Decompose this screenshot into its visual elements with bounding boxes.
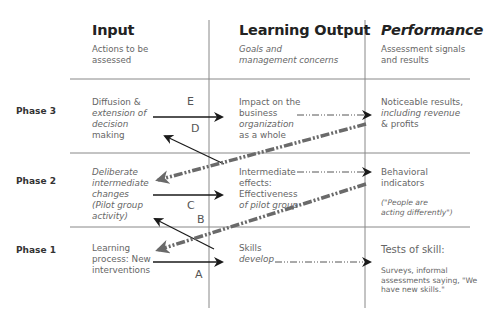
arrow-label-a: A bbox=[195, 268, 203, 281]
arrow-label-b: B bbox=[197, 213, 205, 226]
arrow-label-d: D bbox=[191, 122, 199, 135]
column-subtitle-learning-output: Goals and management concerns bbox=[239, 44, 338, 66]
column-subtitle-performance: Assessment signals and results bbox=[381, 44, 465, 66]
phase1-output: Skills develop bbox=[239, 243, 274, 265]
column-subtitle-input: Actions to be assessed bbox=[92, 44, 148, 66]
phase2-performance: Behavioral indicators bbox=[381, 167, 428, 189]
column-title-input: Input bbox=[92, 22, 134, 38]
arrow-label-e: E bbox=[187, 95, 194, 108]
phase-label-2: Phase 2 bbox=[16, 176, 56, 186]
phase1-performance: Tests of skill: bbox=[381, 244, 445, 255]
phase-label-1: Phase 1 bbox=[16, 245, 56, 255]
phase1-performance-note: Surveys, informal assessments saying, "W… bbox=[381, 266, 477, 295]
phase3-input: Diffusion & extension of decision making bbox=[92, 97, 146, 141]
arrow-label-c: C bbox=[187, 199, 195, 212]
column-title-performance: Performance bbox=[381, 22, 483, 38]
phase-label-3: Phase 3 bbox=[16, 106, 56, 116]
phase3-performance: Noticeable results, including revenue & … bbox=[381, 97, 463, 130]
phase3-output: Impact on the business organization as a… bbox=[239, 97, 300, 141]
phase2-input: Deliberate intermediate changes (Pilot g… bbox=[92, 167, 149, 222]
arrow-d bbox=[165, 136, 224, 164]
phase2-output: Intermediate effects: Effectiveness of p… bbox=[239, 167, 298, 211]
phase2-performance-note: ("People are acting differently") bbox=[381, 198, 453, 217]
phase1-input: Learning process: New interventions bbox=[92, 243, 151, 276]
column-title-learning-output: Learning Output bbox=[239, 22, 370, 38]
